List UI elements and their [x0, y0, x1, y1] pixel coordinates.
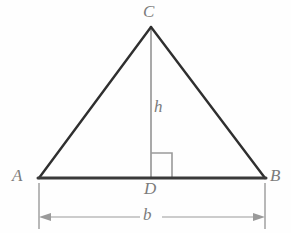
diagram-canvas: [0, 0, 291, 233]
label-base: b: [143, 206, 152, 223]
arrow-right-icon: [253, 213, 265, 221]
label-height: h: [154, 98, 163, 115]
label-vertex-c: C: [143, 3, 154, 20]
label-vertex-d: D: [144, 180, 156, 197]
right-angle-marker-icon: [151, 153, 172, 178]
label-vertex-b: B: [270, 167, 280, 184]
arrow-left-icon: [39, 213, 51, 221]
triangle-diagram: C A B D h b: [0, 0, 291, 233]
label-vertex-a: A: [12, 167, 22, 184]
triangle-side-ac: [39, 27, 151, 178]
triangle-side-cb: [151, 27, 265, 178]
